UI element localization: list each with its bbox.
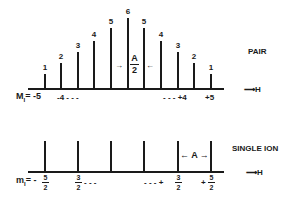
pair-m-label-left: MI= -5 — [16, 92, 41, 105]
pair-m-label-right2: +5 — [205, 93, 214, 102]
pair-line-intensity: 3 — [72, 42, 84, 50]
single-ion-line — [44, 141, 46, 171]
single-ion-m-fourth: 52 — [208, 174, 215, 191]
pair-spacing-label: A 2 — [130, 54, 139, 75]
pair-line — [193, 63, 195, 88]
pair-line — [127, 18, 129, 88]
pair-line — [77, 52, 79, 88]
pair-spacing-arrow-left: → — [115, 61, 123, 70]
single-ion-line — [177, 141, 179, 171]
single-ion-label: SINGLE ION — [232, 144, 278, 153]
single-ion-axis — [28, 171, 224, 173]
pair-line — [110, 28, 112, 88]
single-ion-m-second: 32 — [75, 174, 82, 191]
pair-m-label-left2: -4 - - - — [57, 93, 79, 102]
pair-line-intensity: 2 — [55, 53, 67, 61]
pair-line-intensity: 6 — [122, 8, 134, 16]
pair-line-intensity: 5 — [105, 18, 117, 26]
single-ion-spacing-label: ← A → — [180, 151, 209, 160]
pair-line-intensity: 3 — [172, 42, 184, 50]
pair-line-intensity: 5 — [138, 18, 150, 26]
single-ion-m-third-prefix: - - - + — [144, 178, 163, 187]
pair-line — [210, 74, 212, 88]
pair-line-intensity: 4 — [155, 31, 167, 39]
single-ion-axis-arrow: ⟶H — [246, 168, 263, 177]
single-ion-m-third: 32 — [175, 174, 182, 191]
single-ion-line — [143, 141, 145, 171]
pair-line — [44, 74, 46, 88]
pair-line-intensity: 4 — [88, 31, 100, 39]
pair-line-intensity: 2 — [188, 53, 200, 61]
single-ion-line — [77, 141, 79, 171]
single-ion-m-second-suffix: - - - — [84, 178, 96, 187]
pair-line — [93, 41, 95, 88]
single-ion-line — [110, 141, 112, 171]
pair-axis-arrow: ⟶H — [244, 85, 261, 94]
single-ion-m-label: mI= - — [16, 176, 36, 189]
pair-line — [177, 52, 179, 88]
single-ion-m-first: 52 — [42, 174, 49, 191]
pair-axis — [28, 88, 224, 90]
pair-line — [60, 63, 62, 88]
pair-spacing-arrow-right: ← — [146, 61, 154, 70]
pair-label: PAIR — [248, 47, 267, 56]
arrow-right-icon: ⟶ — [244, 85, 255, 94]
pair-m-label-right: - - - +4 — [163, 93, 187, 102]
pair-line-intensity: 1 — [39, 64, 51, 72]
pair-line — [143, 28, 145, 88]
pair-line — [160, 41, 162, 88]
single-ion-line — [210, 141, 212, 171]
pair-line-intensity: 1 — [205, 64, 217, 72]
arrow-right-icon: ⟶ — [246, 168, 257, 177]
single-ion-m-fourth-prefix: + — [201, 178, 206, 187]
